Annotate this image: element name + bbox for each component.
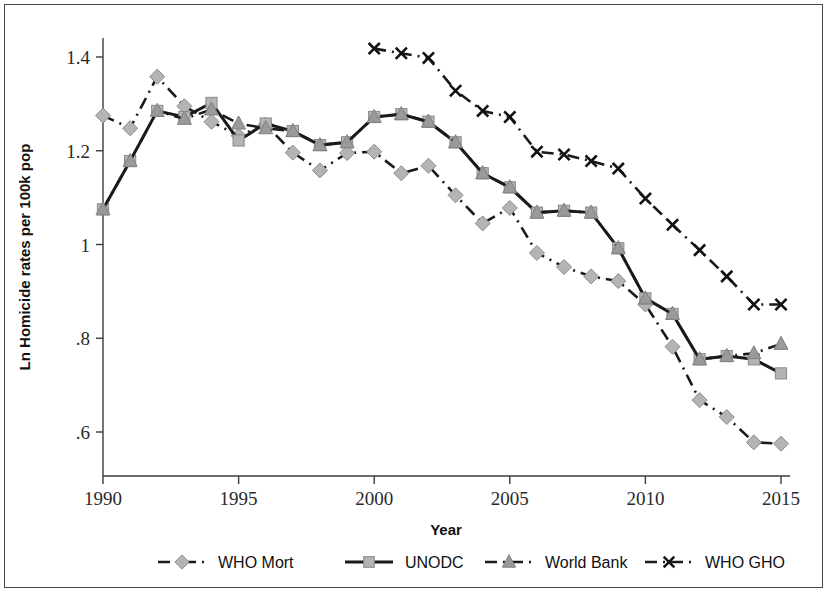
data-point: [285, 145, 300, 160]
x-tick-label: 2000: [355, 488, 393, 509]
series-line: [103, 110, 781, 360]
data-point: [423, 52, 434, 63]
x-tick-label: 1990: [84, 488, 122, 509]
series-unodc: [97, 97, 786, 379]
y-tick-label: 1: [81, 235, 91, 256]
x-tick-label: 2005: [491, 488, 529, 509]
y-tick-label: .8: [76, 328, 90, 349]
data-point: [748, 299, 759, 310]
legend-item-who-gho[interactable]: WHO GHO: [645, 554, 785, 571]
data-point: [96, 108, 111, 123]
data-point: [123, 121, 138, 136]
data-point: [613, 163, 624, 174]
x-tick-label: 2010: [626, 488, 664, 509]
data-point: [394, 166, 409, 181]
data-point: [640, 193, 651, 204]
data-point: [531, 146, 542, 157]
data-point: [775, 368, 786, 379]
y-tick-label: .6: [76, 422, 90, 443]
data-point: [667, 219, 678, 230]
legend-label: UNODC: [405, 554, 464, 571]
legend-item-unodc[interactable]: UNODC: [345, 554, 464, 571]
data-point: [557, 260, 572, 275]
data-point: [584, 269, 599, 284]
chart-page: 1.41.21.8.6199019952000200520102015Ln Ho…: [0, 0, 827, 592]
series-line: [374, 49, 781, 305]
data-point: [746, 435, 761, 450]
series-line: [103, 103, 781, 374]
data-point: [232, 116, 246, 129]
series-world-bank: [96, 102, 788, 365]
data-point: [529, 245, 544, 260]
legend-marker-square-icon: [364, 557, 375, 568]
data-point: [150, 69, 165, 84]
line-chart: 1.41.21.8.6199019952000200520102015Ln Ho…: [0, 0, 827, 592]
data-point: [450, 85, 461, 96]
axes: 1.41.21.8.6199019952000200520102015Ln Ho…: [16, 38, 800, 538]
data-point: [504, 111, 515, 122]
legend-label: WHO Mort: [218, 554, 294, 571]
y-tick-label: 1.4: [66, 47, 90, 68]
data-point: [475, 216, 490, 231]
x-tick-label: 1995: [220, 488, 258, 509]
legend: WHO MortUNODCWorld BankWHO GHO: [158, 554, 785, 571]
data-point: [692, 393, 707, 408]
x-axis-title: Year: [430, 521, 462, 538]
legend-item-who-mort[interactable]: WHO Mort: [158, 554, 294, 571]
legend-label: World Bank: [545, 554, 628, 571]
legend-marker-diamond-icon: [175, 555, 189, 569]
legend-label: WHO GHO: [705, 554, 785, 571]
data-point: [694, 245, 705, 256]
series-who-mort: [96, 69, 789, 451]
x-tick-label: 2015: [762, 488, 800, 509]
data-point: [204, 114, 219, 129]
data-point: [502, 200, 517, 215]
data-point: [665, 339, 680, 354]
y-tick-label: 1.2: [66, 141, 90, 162]
y-axis-title: Ln Homicide rates per 100k pop: [16, 144, 33, 371]
series-who-gho: [369, 43, 787, 310]
data-point: [312, 163, 327, 178]
data-point: [233, 135, 244, 146]
data-point: [774, 336, 788, 349]
legend-item-world-bank[interactable]: World Bank: [485, 554, 628, 571]
data-point: [721, 271, 732, 282]
data-point: [747, 346, 761, 359]
data-point: [719, 410, 734, 425]
data-point: [774, 436, 789, 451]
